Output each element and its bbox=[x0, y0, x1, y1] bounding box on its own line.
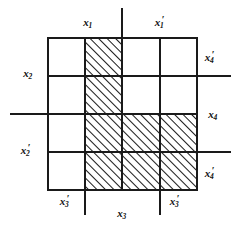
grid-diagram-svg bbox=[0, 0, 239, 232]
grid-diagram-figure: x1 x1′ x2 x2′ x4′ x4 x4′ x3′ x3 x3′ bbox=[0, 0, 239, 232]
label-x4-right-middle: x4 bbox=[208, 109, 217, 120]
label-x3-prime-bottom-left: x3′ bbox=[60, 196, 72, 207]
label-x3-prime-bottom-right: x3′ bbox=[170, 196, 182, 207]
label-x1-prime-top: x1′ bbox=[155, 17, 167, 28]
label-x4-prime-right-upper: x4′ bbox=[205, 52, 217, 63]
label-x1-top: x1 bbox=[83, 17, 92, 28]
label-x2-prime-left: x2′ bbox=[21, 145, 33, 156]
label-x2-left: x2 bbox=[23, 68, 32, 79]
label-x4-prime-right-lower: x4′ bbox=[205, 168, 217, 179]
label-x3-bottom-center: x3 bbox=[117, 208, 126, 219]
